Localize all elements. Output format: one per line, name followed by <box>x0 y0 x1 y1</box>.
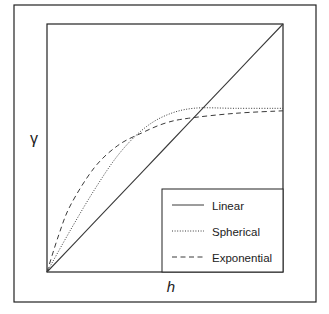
variogram-figure: LinearSphericalExponential γ h <box>0 0 329 314</box>
x-axis-label: h <box>167 278 175 295</box>
legend: LinearSphericalExponential <box>162 189 283 272</box>
legend-label: Linear <box>212 200 244 212</box>
legend-label: Spherical <box>212 226 260 238</box>
y-axis-label: γ <box>30 130 38 147</box>
legend-label: Exponential <box>212 252 272 264</box>
